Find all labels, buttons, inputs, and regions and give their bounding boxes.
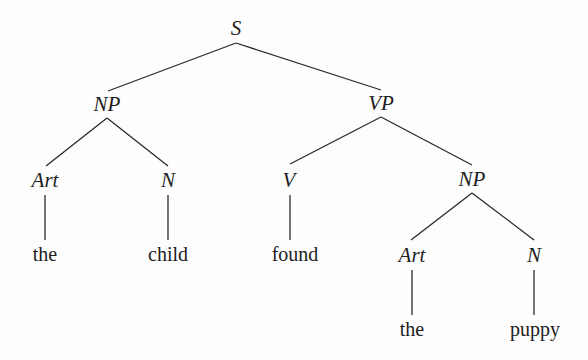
- node-n-subject: N: [161, 170, 175, 191]
- edge-vp-np: [381, 117, 472, 165]
- node-np-subject: NP: [94, 94, 121, 115]
- edge-np2-art: [411, 193, 472, 240]
- edge-vp-v: [290, 117, 381, 164]
- word-puppy: puppy: [510, 319, 560, 339]
- node-art-subject: Art: [32, 170, 59, 191]
- node-n-object: N: [527, 245, 541, 266]
- edge-s-vp: [236, 43, 381, 90]
- node-art-object: Art: [399, 245, 426, 266]
- word-found: found: [272, 244, 319, 264]
- word-the-2: the: [400, 319, 424, 339]
- node-v: V: [283, 170, 296, 191]
- syntax-tree-diagram: S NP VP Art N V NP Art N the child found…: [0, 0, 588, 360]
- edge-np2-n: [472, 193, 534, 240]
- edge-np-art: [46, 118, 107, 166]
- node-s: S: [231, 18, 242, 39]
- node-np-object: NP: [459, 169, 486, 190]
- edge-s-np: [108, 43, 236, 91]
- edge-np-n: [107, 118, 168, 166]
- word-child: child: [148, 244, 188, 264]
- node-vp: VP: [368, 93, 394, 114]
- word-the-1: the: [33, 244, 57, 264]
